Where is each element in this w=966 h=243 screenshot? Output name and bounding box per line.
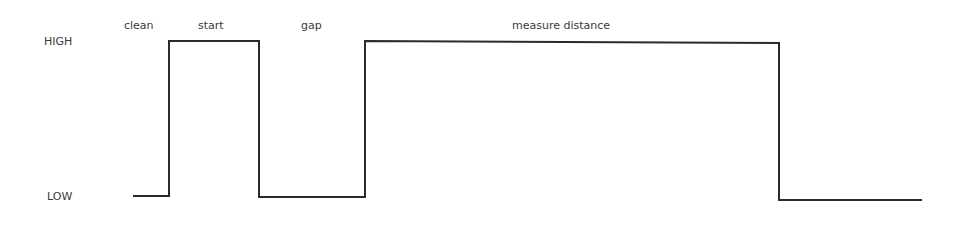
signal-line [133, 41, 922, 200]
signal-waveform [0, 0, 966, 243]
